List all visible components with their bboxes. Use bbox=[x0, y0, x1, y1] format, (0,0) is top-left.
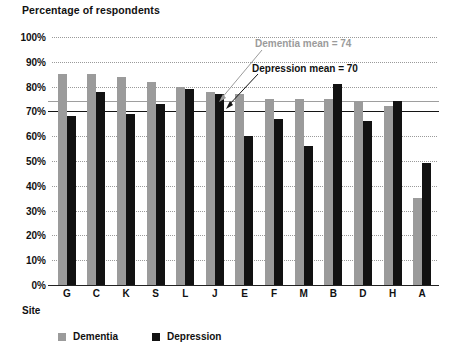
bar-dementia-C[interactable] bbox=[87, 74, 96, 285]
x-tick-J: J bbox=[200, 288, 230, 299]
legend-swatch-dementia-icon bbox=[58, 333, 66, 341]
bar-group-B bbox=[318, 37, 348, 285]
bar-dementia-K[interactable] bbox=[117, 77, 126, 285]
x-axis-line bbox=[48, 285, 439, 286]
bar-dementia-H[interactable] bbox=[384, 106, 393, 285]
y-tick-100: 100% bbox=[0, 32, 46, 43]
x-tick-S: S bbox=[141, 288, 171, 299]
chart-legend: DementiaDepression bbox=[58, 331, 221, 342]
x-tick-F: F bbox=[259, 288, 289, 299]
chart-title: Percentage of respondents bbox=[22, 4, 160, 16]
bar-depression-D[interactable] bbox=[363, 121, 372, 285]
y-tick-50: 50% bbox=[0, 156, 46, 167]
bar-group-K bbox=[111, 37, 141, 285]
legend-item-depression[interactable]: Depression bbox=[152, 331, 221, 342]
bar-depression-J[interactable] bbox=[215, 94, 224, 285]
x-tick-H: H bbox=[378, 288, 408, 299]
bar-dementia-L[interactable] bbox=[176, 87, 185, 285]
bar-group-S bbox=[141, 37, 171, 285]
y-tick-20: 20% bbox=[0, 230, 46, 241]
bar-group-F bbox=[259, 37, 289, 285]
y-tick-10: 10% bbox=[0, 255, 46, 266]
y-tick-0: 0% bbox=[0, 280, 46, 291]
y-tick-30: 30% bbox=[0, 205, 46, 216]
bar-depression-C[interactable] bbox=[96, 92, 105, 285]
bar-group-D bbox=[348, 37, 378, 285]
x-tick-E: E bbox=[230, 288, 260, 299]
y-tick-70: 70% bbox=[0, 106, 46, 117]
bar-dementia-M[interactable] bbox=[295, 99, 304, 285]
bar-groups bbox=[52, 37, 437, 285]
x-tick-D: D bbox=[348, 288, 378, 299]
x-tick-C: C bbox=[82, 288, 112, 299]
legend-item-dementia[interactable]: Dementia bbox=[58, 331, 118, 342]
bar-depression-B[interactable] bbox=[333, 84, 342, 285]
y-tick-60: 60% bbox=[0, 131, 46, 142]
bar-depression-K[interactable] bbox=[126, 114, 135, 285]
bar-dementia-J[interactable] bbox=[206, 92, 215, 285]
chart-container: Percentage of respondents 100%90%80%70%6… bbox=[0, 0, 459, 359]
bar-depression-F[interactable] bbox=[274, 119, 283, 285]
bar-dementia-B[interactable] bbox=[324, 99, 333, 285]
bar-depression-E[interactable] bbox=[244, 136, 253, 285]
y-tick-40: 40% bbox=[0, 180, 46, 191]
x-axis-title: Site bbox=[22, 305, 40, 316]
bar-group-E bbox=[230, 37, 260, 285]
bar-depression-M[interactable] bbox=[304, 146, 313, 285]
bar-group-H bbox=[378, 37, 408, 285]
x-tick-G: G bbox=[52, 288, 82, 299]
legend-label-depression: Depression bbox=[167, 331, 221, 342]
bar-dementia-D[interactable] bbox=[354, 101, 363, 285]
bar-group-C bbox=[82, 37, 112, 285]
y-tick-80: 80% bbox=[0, 81, 46, 92]
legend-swatch-depression-icon bbox=[152, 333, 160, 341]
bar-dementia-A[interactable] bbox=[413, 198, 422, 285]
bar-dementia-G[interactable] bbox=[58, 74, 67, 285]
y-tick-90: 90% bbox=[0, 56, 46, 67]
x-tick-K: K bbox=[111, 288, 141, 299]
bar-group-G bbox=[52, 37, 82, 285]
bar-depression-S[interactable] bbox=[156, 104, 165, 285]
annotation-dementia-mean: Dementia mean = 74 bbox=[255, 38, 351, 49]
bar-dementia-S[interactable] bbox=[147, 82, 156, 285]
bar-depression-L[interactable] bbox=[185, 89, 194, 285]
bar-depression-A[interactable] bbox=[422, 163, 431, 285]
bar-dementia-E[interactable] bbox=[235, 94, 244, 285]
x-tick-M: M bbox=[289, 288, 319, 299]
legend-label-dementia: Dementia bbox=[73, 331, 118, 342]
bar-group-J bbox=[200, 37, 230, 285]
annotation-depression-mean: Depression mean = 70 bbox=[252, 63, 358, 74]
bar-dementia-F[interactable] bbox=[265, 99, 274, 285]
x-axis-tick-labels: GCKSLJEFMBDHA bbox=[52, 288, 437, 299]
bar-depression-G[interactable] bbox=[67, 116, 76, 285]
x-tick-A: A bbox=[407, 288, 437, 299]
x-tick-L: L bbox=[170, 288, 200, 299]
bar-depression-H[interactable] bbox=[393, 101, 402, 285]
bar-group-M bbox=[289, 37, 319, 285]
bar-group-A bbox=[407, 37, 437, 285]
plot-area bbox=[52, 37, 437, 285]
bar-group-L bbox=[170, 37, 200, 285]
x-tick-B: B bbox=[318, 288, 348, 299]
